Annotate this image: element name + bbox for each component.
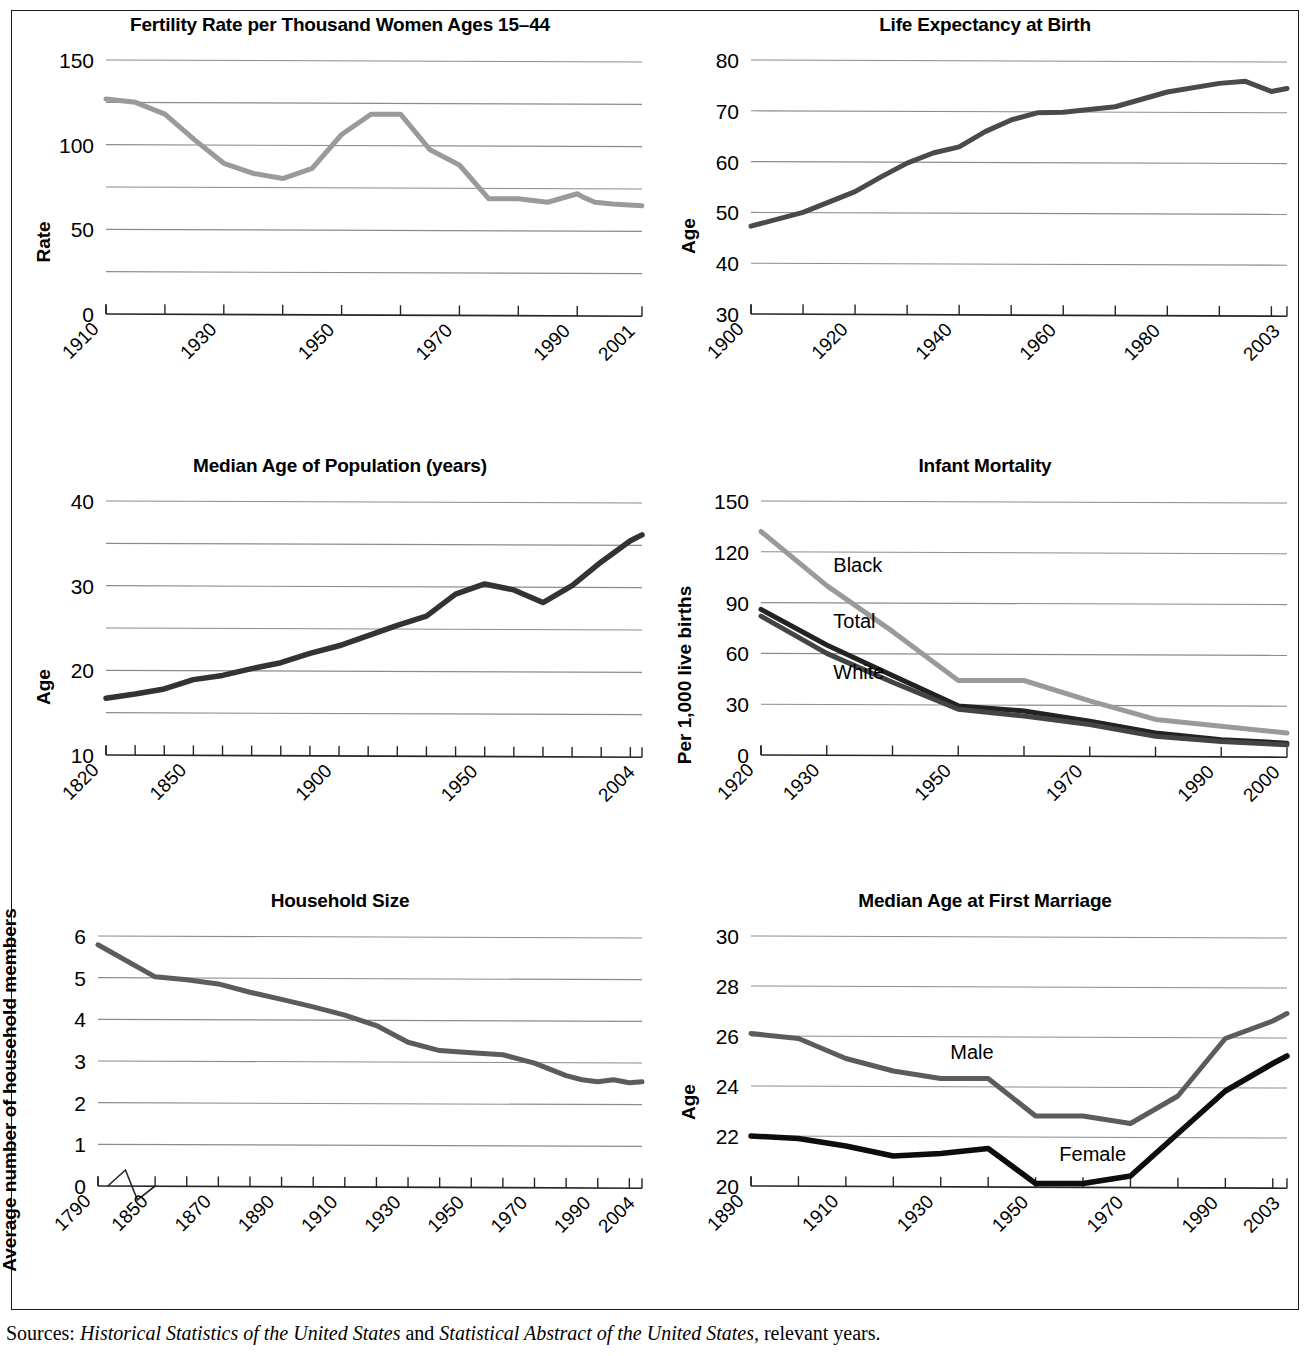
gridline: [98, 1103, 642, 1105]
x-axis-tick-label: 1960: [1015, 319, 1060, 364]
y-axis-tick-label: 1: [74, 1133, 86, 1156]
sources-title-1: Historical Statistics of the United Stat…: [80, 1322, 401, 1344]
gridline: [98, 936, 642, 938]
gridline: [98, 1061, 642, 1063]
x-axis-tick-label: 1890: [703, 1190, 748, 1235]
y-axis-tick-label: 40: [71, 490, 94, 513]
gridline: [106, 60, 642, 62]
chart-panel-median-age-first-marriage: Median Age at First Marriage 20222426283…: [665, 890, 1305, 1300]
x-axis-tick-label: 1930: [779, 759, 824, 804]
sources-suffix: , relevant years.: [754, 1322, 881, 1344]
x-axis-tick-label: 1990: [1173, 761, 1218, 806]
y-axis-tick-label: 20: [71, 659, 94, 682]
gridline: [751, 111, 1287, 113]
x-axis-tick-label: 1930: [893, 1191, 938, 1236]
y-axis-tick-label: 30: [71, 575, 94, 598]
gridline: [751, 1086, 1287, 1088]
x-axis-tick-label: 1820: [58, 759, 103, 804]
x-axis-tick-label: 1850: [107, 1190, 152, 1235]
gridline: [106, 670, 642, 672]
x-axis-tick-label: 2000: [1239, 761, 1284, 806]
x-axis-tick-label: 1900: [703, 318, 748, 363]
y-axis-title: Per 1,000 live births: [674, 586, 695, 765]
x-axis-tick-label: 1910: [798, 1190, 843, 1235]
y-axis-tick-label: 30: [726, 693, 749, 716]
gridline: [98, 1144, 642, 1146]
x-axis-tick-label: 1970: [487, 1192, 532, 1237]
gridline: [106, 628, 642, 630]
x-axis-tick-label: 1930: [360, 1191, 405, 1236]
x-axis-tick-label: 1950: [294, 319, 339, 364]
gridline: [751, 1036, 1287, 1038]
series-label: Male: [950, 1041, 993, 1063]
gridline: [106, 543, 642, 545]
gridline: [751, 263, 1287, 265]
gridline: [761, 704, 1287, 706]
x-axis-tick-label: 1850: [145, 759, 190, 804]
y-axis-tick-label: 40: [716, 252, 739, 275]
y-axis-tick-label: 70: [716, 100, 739, 123]
y-axis-tick-label: 30: [716, 925, 739, 948]
series-label: Total: [833, 610, 875, 632]
y-axis-tick-label: 5: [74, 967, 86, 990]
chart-panel-infant-mortality: Infant Mortality 03060901201501920193019…: [665, 455, 1305, 875]
y-axis-tick-label: 22: [716, 1125, 739, 1148]
series-label: White: [833, 661, 884, 683]
chart-canvas: 0306090120150192019301950197019902000Bla…: [665, 455, 1305, 875]
gridline: [751, 936, 1287, 938]
y-axis-tick-label: 28: [716, 975, 739, 998]
y-axis-tick-label: 4: [74, 1008, 86, 1031]
x-axis-line: [106, 314, 642, 316]
x-axis-tick-label: 1790: [50, 1190, 95, 1235]
y-axis-title: Average number of household members: [0, 908, 20, 1272]
x-axis-tick-label: 1950: [988, 1191, 1033, 1236]
x-axis-tick-label: 2003: [1239, 1192, 1284, 1237]
x-axis-tick-label: 1870: [170, 1190, 215, 1235]
chart-panel-fertility-rate: Fertility Rate per Thousand Women Ages 1…: [20, 14, 660, 434]
x-axis-line: [751, 314, 1287, 316]
x-axis-tick-label: 2004: [594, 1192, 639, 1237]
x-axis-tick-label: 1890: [234, 1191, 279, 1236]
x-axis-tick-label: 1990: [529, 320, 574, 365]
x-axis-tick-label: 1920: [713, 759, 758, 804]
x-axis-line: [98, 1186, 642, 1188]
x-axis-tick-label: 1950: [437, 761, 482, 806]
y-axis-tick-label: 100: [59, 134, 94, 157]
chart-panel-median-age-population: Median Age of Population (years) 1020304…: [20, 455, 660, 875]
gridline: [106, 586, 642, 588]
y-axis-tick-label: 2: [74, 1092, 86, 1115]
y-axis-tick-label: 90: [726, 592, 749, 615]
gridline: [761, 501, 1287, 503]
data-series-line: [106, 99, 642, 206]
x-axis-line: [751, 1186, 1287, 1188]
chart-panel-household-size: Household Size 0123456179018501870189019…: [20, 890, 660, 1300]
gridline: [106, 145, 642, 147]
gridline: [106, 102, 642, 104]
y-axis-tick-label: 60: [716, 151, 739, 174]
x-axis-tick-label: 1990: [550, 1192, 595, 1237]
chart-canvas: 2022242628301890191019301950197019902003…: [665, 890, 1305, 1300]
chart-canvas: 304050607080190019201940196019802003Age: [665, 14, 1305, 434]
y-axis-tick-label: 60: [726, 642, 749, 665]
y-axis-tick-label: 50: [71, 218, 94, 241]
gridline: [106, 272, 642, 274]
gridline: [106, 229, 642, 231]
series-label: Female: [1059, 1143, 1126, 1165]
x-axis-tick-label: 1900: [291, 760, 336, 805]
sources-note: Sources: Historical Statistics of the Un…: [6, 1322, 1296, 1345]
sources-prefix: Sources:: [6, 1322, 75, 1344]
x-axis-tick-label: 1940: [911, 319, 956, 364]
data-series-line: [751, 1056, 1287, 1184]
x-axis-line: [106, 755, 642, 757]
sources-conjunction: and: [400, 1322, 439, 1344]
y-axis-title: Rate: [33, 221, 54, 262]
x-axis-tick-label: 1910: [58, 318, 103, 363]
gridline: [751, 212, 1287, 214]
sources-title-2: Statistical Abstract of the United State…: [439, 1322, 754, 1344]
y-axis-tick-label: 24: [716, 1075, 740, 1098]
gridline: [751, 60, 1287, 62]
y-axis-tick-label: 80: [716, 49, 739, 72]
y-axis-title: Age: [33, 669, 54, 705]
y-axis-tick-label: 26: [716, 1025, 739, 1048]
y-axis-tick-label: 150: [714, 490, 749, 513]
